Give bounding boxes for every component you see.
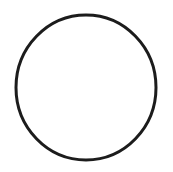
- circle-figure-svg: [0, 0, 173, 172]
- figure-canvas: Circle: [0, 0, 173, 172]
